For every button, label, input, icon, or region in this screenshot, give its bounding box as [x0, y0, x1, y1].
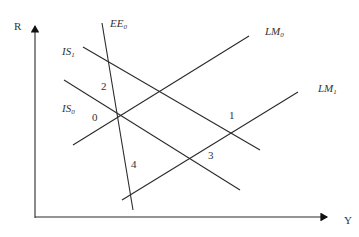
point-label-1: 1: [229, 109, 235, 121]
x-axis-label: Y: [344, 214, 352, 226]
ee0-label: EE0: [109, 17, 127, 31]
is1-label: IS1: [61, 45, 75, 59]
lm1-curve: [122, 92, 298, 200]
y-axis-label: R: [14, 20, 22, 32]
lm0-label: LM0: [264, 25, 284, 39]
is-lm-ee-diagram: R Y EE0 IS1 IS0 LM0 LM1 2 0 1 3 4: [0, 0, 359, 237]
is0-label: IS0: [61, 102, 75, 116]
point-label-3: 3: [208, 149, 214, 161]
lm1-label: LM1: [317, 82, 337, 96]
point-label-0: 0: [92, 111, 98, 123]
point-label-4: 4: [131, 158, 137, 170]
is1-curve: [83, 47, 260, 150]
ee0-curve: [102, 23, 133, 210]
point-label-2: 2: [101, 80, 107, 92]
